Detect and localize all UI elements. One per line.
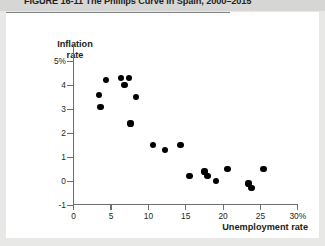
x-axis-tick-label: 0	[59, 211, 89, 221]
y-axis-line	[73, 45, 74, 205]
data-point	[96, 92, 102, 98]
figure-title-bar: FIGURE 16-11 The Phillips Curve in Spain…	[0, 0, 325, 11]
data-point	[126, 75, 132, 81]
x-axis-tick	[110, 204, 111, 210]
x-axis-tick-label: 5	[96, 211, 126, 221]
scatter-plot-area: Inflationrate Unemployment rate 5%43210-…	[6, 12, 319, 238]
data-point	[204, 173, 210, 179]
y-axis-tick	[67, 157, 73, 158]
y-axis-tick	[67, 85, 73, 86]
x-axis-tick	[260, 204, 261, 210]
y-axis-tick-label-text: 2	[42, 128, 66, 138]
data-point	[224, 166, 230, 172]
y-axis-tick-label-text: -1	[42, 200, 66, 210]
y-axis-tick-label-text: 0	[42, 176, 66, 186]
data-point	[248, 185, 254, 191]
data-point	[150, 142, 156, 148]
x-axis-tick-label: 25	[245, 211, 275, 221]
data-point	[127, 120, 133, 126]
x-axis-tick	[148, 204, 149, 210]
x-axis-tick	[185, 204, 186, 210]
y-axis-tick	[67, 109, 73, 110]
y-axis-tick	[67, 61, 73, 62]
y-axis-tick	[67, 205, 73, 206]
data-point	[260, 166, 266, 172]
data-point	[177, 142, 183, 148]
x-axis-tick-label: 10	[133, 211, 163, 221]
y-axis-tick-label-text: 3	[42, 104, 66, 114]
data-point	[121, 82, 127, 88]
x-axis-tick	[223, 204, 224, 210]
x-axis-tick-label: 15	[171, 211, 201, 221]
figure-title-text: FIGURE 16-11 The Phillips Curve in Spain…	[24, 0, 251, 6]
y-axis-tick-label-text: 1	[42, 152, 66, 162]
data-point	[97, 104, 103, 110]
y-axis-title-line: Inflation	[44, 39, 106, 50]
data-point	[213, 178, 219, 184]
y-axis-tick	[67, 181, 73, 182]
data-point	[162, 147, 168, 153]
x-axis-tick-label: 30%	[283, 211, 313, 221]
x-axis-tick	[297, 204, 298, 210]
x-axis-tick-label: 20	[208, 211, 238, 221]
x-axis-tick	[73, 204, 74, 210]
data-point	[186, 173, 192, 179]
data-point	[103, 77, 109, 83]
data-point	[133, 94, 139, 100]
chart-panel: Inflationrate Unemployment rate 5%43210-…	[6, 12, 319, 238]
x-axis-title: Unemployment rate	[176, 222, 308, 232]
zero-reference-line	[6, 12, 230, 13]
data-point	[118, 75, 124, 81]
y-axis-tick	[67, 133, 73, 134]
y-axis-tick-label-text: 5%	[42, 56, 66, 66]
y-axis-tick-label-text: 4	[42, 80, 66, 90]
